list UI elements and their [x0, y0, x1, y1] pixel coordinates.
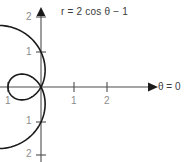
x-axis-label-1-positive: 1 [71, 96, 77, 106]
y-axis-label-2-negative: 2 [26, 149, 32, 159]
x-axis-label-1-negative: 1 [5, 96, 11, 106]
x-axis-label-2-positive: 2 [104, 96, 110, 106]
x-axis-arrowhead-icon [148, 83, 158, 92]
y-axis-label-1-positive: 1 [26, 47, 32, 57]
polar-plot-figure: 2 1 1 2 1 1 2 r = 2 cos θ − 1 θ = 0 [0, 0, 187, 162]
y-axis-arrowhead-icon [37, 7, 46, 16]
y-axis-label-1-negative: 1 [26, 116, 32, 126]
y-axis-label-2-positive: 2 [26, 12, 32, 22]
theta-zero-axis-label: θ = 0 [158, 81, 181, 92]
equation-label: r = 2 cos θ − 1 [61, 6, 128, 17]
